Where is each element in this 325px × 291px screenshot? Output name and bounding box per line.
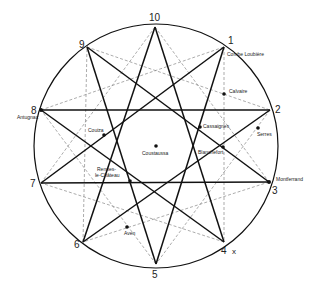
place-label: Combe Loubière: [227, 51, 264, 57]
vertex-label-4: 4: [221, 245, 227, 256]
solid-line-8-4: [41, 110, 224, 242]
vertex-label-2: 2: [275, 104, 281, 115]
dashed-line-8-1: [41, 47, 224, 110]
place-label: Aven: [124, 230, 136, 236]
place-label: le-Château: [95, 172, 120, 178]
solid-line-7-3: [41, 182, 269, 183]
place-dot-icon: [128, 179, 132, 183]
place-label: Cassaignes: [203, 123, 230, 129]
solid-line-10-4: [155, 27, 224, 242]
vertex-label-5: 5: [152, 269, 158, 280]
place-markers: [39, 92, 271, 229]
place-label: Coustaussa: [142, 150, 169, 156]
place-dot-icon: [125, 225, 129, 229]
place-label: Serres: [257, 131, 272, 137]
place-dot-icon: [154, 144, 158, 148]
place-label: Couiza: [88, 127, 104, 133]
vertex-label-7: 7: [30, 178, 36, 189]
place-dot-icon: [102, 133, 106, 137]
place-label: Antugnac: [17, 114, 39, 120]
dashed-line-6-9: [83, 47, 87, 242]
vertex-label-10: 10: [149, 12, 161, 23]
vertex-label-9: 9: [79, 39, 85, 50]
vertex-label-1: 1: [228, 35, 234, 46]
dashed-line-5-8: [41, 110, 156, 264]
vertex-label-3: 3: [272, 185, 278, 196]
place-label: Calvaire: [229, 88, 248, 94]
decagram-diagram: 12345678910 Combe LoubièreCalvaireSerres…: [0, 0, 325, 291]
vertex-label-6: 6: [74, 239, 80, 250]
vertex-marker-icon: [39, 108, 43, 112]
place-dot-icon: [256, 126, 260, 130]
vertex-marker-icon: [267, 180, 271, 184]
solid-line-10-6: [83, 27, 155, 242]
place-dot-icon: [222, 92, 226, 96]
dashed-line-7-10: [41, 27, 155, 183]
place-label: Blanchefort: [198, 149, 224, 155]
place-dot-icon: [198, 125, 202, 129]
place-label: Montferrand: [276, 176, 303, 182]
solid-line-9-3: [87, 47, 269, 182]
x-mark-label: x: [232, 247, 236, 256]
